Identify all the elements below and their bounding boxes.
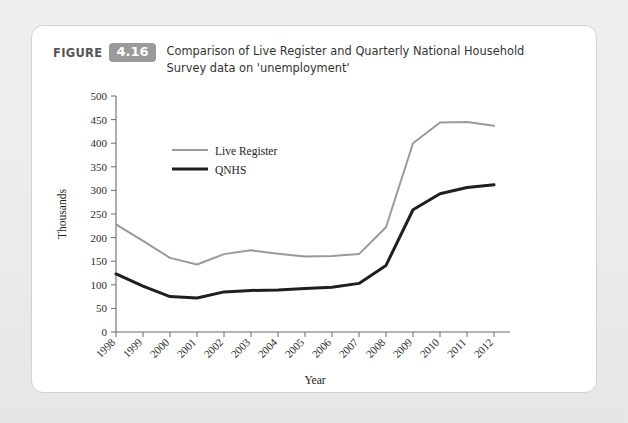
y-tick-label: 200 [91, 232, 108, 244]
y-axis-ticks: 050100150200250300350400450500 [91, 90, 117, 338]
figure-number-badge: 4.16 [109, 43, 155, 62]
x-axis-title: Year [304, 374, 325, 386]
series-line-live-register [116, 122, 494, 265]
x-tick-label: 2002 [201, 336, 225, 360]
chart-legend: Live RegisterQNHS [172, 145, 277, 176]
x-tick-label: 1999 [120, 336, 144, 360]
figure-header: FIGURE 4.16 Comparison of Live Register … [53, 43, 578, 76]
data-series-group [116, 122, 494, 298]
y-tick-label: 300 [91, 184, 108, 196]
y-tick-label: 250 [91, 208, 108, 220]
x-axis-ticks: 1998199920002001200220032004200520062007… [93, 332, 495, 360]
chart-plot: 050100150200250300350400450500 199819992… [32, 84, 598, 390]
y-tick-label: 400 [91, 137, 108, 149]
x-tick-label: 2011 [445, 336, 469, 360]
series-line-qnhs [116, 185, 494, 298]
y-tick-label: 150 [91, 255, 108, 267]
legend-label: Live Register [215, 145, 277, 158]
x-tick-label: 2012 [471, 336, 495, 360]
y-tick-label: 500 [91, 90, 108, 102]
y-axis-title: Thousands [56, 189, 68, 239]
x-tick-label: 2000 [147, 336, 171, 360]
y-tick-label: 0 [102, 326, 108, 338]
x-tick-label: 2006 [309, 336, 333, 360]
x-tick-label: 2005 [282, 336, 306, 360]
x-tick-label: 2003 [228, 336, 252, 360]
y-tick-label: 350 [91, 161, 108, 173]
figure-card: FIGURE 4.16 Comparison of Live Register … [31, 25, 597, 393]
x-tick-label: 2001 [174, 336, 198, 360]
y-tick-label: 450 [91, 114, 108, 126]
x-tick-label: 2004 [255, 336, 279, 360]
x-tick-label: 2010 [417, 336, 441, 360]
y-tick-label: 50 [96, 302, 108, 314]
x-tick-label: 1998 [93, 336, 117, 360]
line-chart: 050100150200250300350400450500 199819992… [32, 84, 598, 390]
page-background: FIGURE 4.16 Comparison of Live Register … [0, 0, 628, 423]
figure-label: FIGURE [53, 43, 102, 62]
y-tick-label: 100 [91, 279, 108, 291]
x-tick-label: 2009 [390, 336, 414, 360]
x-tick-label: 2008 [363, 336, 387, 360]
legend-label: QNHS [215, 164, 246, 176]
figure-caption: Comparison of Live Register and Quarterl… [167, 43, 567, 76]
x-tick-label: 2007 [336, 336, 360, 360]
